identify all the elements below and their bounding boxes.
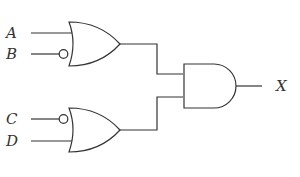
inverter-bubble-b bbox=[59, 50, 68, 59]
wire-or-bottom-to-and bbox=[120, 97, 183, 130]
input-label-c: C bbox=[6, 110, 18, 128]
output-label-x: X bbox=[275, 77, 288, 95]
wire-or-top-to-and bbox=[120, 44, 183, 74]
inverter-bubble-c bbox=[59, 115, 68, 124]
logic-circuit-diagram: A B C D X bbox=[0, 0, 300, 177]
input-label-b: B bbox=[5, 45, 17, 63]
or-gate-top bbox=[69, 22, 120, 66]
and-gate bbox=[184, 64, 236, 108]
input-label-d: D bbox=[5, 132, 18, 150]
or-gate-bottom bbox=[69, 108, 120, 152]
input-label-a: A bbox=[4, 24, 17, 42]
